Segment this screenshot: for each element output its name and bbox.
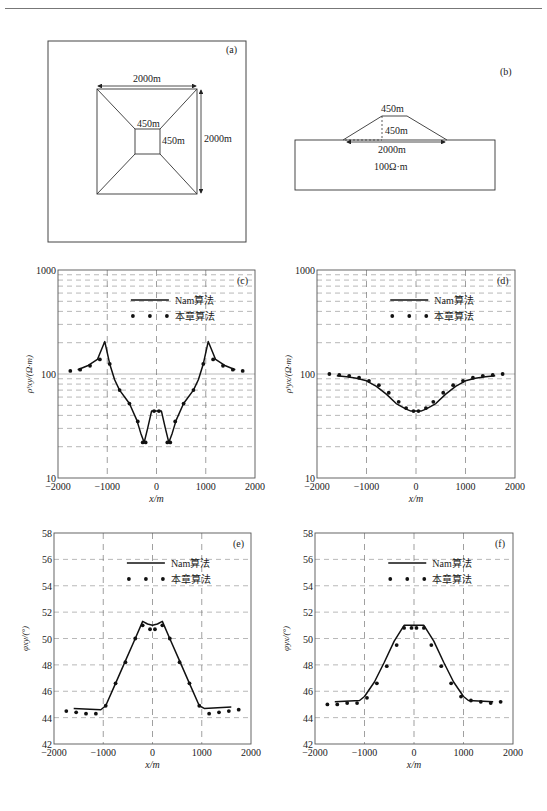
- x-tick-label: 2000: [505, 481, 525, 492]
- data-point-this-chapter: [459, 695, 463, 699]
- resistivity-label: 100Ω·m: [374, 161, 408, 172]
- base-width-label: 2000m: [378, 144, 406, 155]
- chart-d: −2000−1000010002000101001000x/mρˢyx/(Ω·m…: [273, 255, 547, 527]
- pyramid-edge: [97, 89, 135, 129]
- data-point-this-chapter: [387, 391, 391, 395]
- data-point-this-chapter: [335, 703, 339, 707]
- legend-dot-swatch: [131, 314, 135, 318]
- panel-label-b: (b): [500, 66, 512, 78]
- legend-label-nam: Nam算法: [434, 294, 473, 306]
- data-point-this-chapter: [412, 409, 416, 413]
- x-tick-label: 1000: [192, 747, 212, 758]
- data-point-this-chapter: [178, 660, 182, 664]
- data-point-this-chapter: [114, 681, 118, 685]
- panel-label: (c): [237, 275, 248, 287]
- x-axis-label: x/m: [148, 493, 163, 504]
- y-tick-label: 48: [42, 660, 52, 671]
- data-point-this-chapter: [345, 701, 349, 705]
- y-tick-label: 54: [42, 581, 52, 592]
- data-point-this-chapter: [481, 374, 485, 378]
- legend-label-nam: Nam算法: [432, 557, 471, 569]
- data-point-this-chapter: [439, 664, 443, 668]
- y-tick-label: 1000: [295, 265, 315, 276]
- x-axis-label: x/m: [144, 759, 159, 770]
- data-point-this-chapter: [469, 699, 473, 703]
- data-point-this-chapter: [241, 369, 245, 373]
- data-point-this-chapter: [133, 637, 137, 641]
- legend-dot-swatch: [407, 314, 411, 318]
- data-point-this-chapter: [417, 409, 421, 413]
- data-point-this-chapter: [325, 703, 329, 707]
- panel-label: (d): [497, 275, 509, 287]
- data-point-this-chapter: [422, 626, 426, 630]
- y-tick-label: 54: [303, 581, 313, 592]
- data-point-this-chapter: [221, 364, 225, 368]
- data-point-this-chapter: [64, 709, 68, 713]
- data-point-this-chapter: [84, 712, 88, 716]
- inner-width-label: 450m: [137, 118, 160, 129]
- x-tick-label: 0: [412, 747, 417, 758]
- x-tick-label: 0: [414, 481, 419, 492]
- data-point-this-chapter: [404, 406, 408, 410]
- data-point-this-chapter: [355, 701, 359, 705]
- x-tick-label: −1000: [354, 481, 380, 492]
- data-point-this-chapter: [197, 704, 201, 708]
- x-tick-label: 1000: [456, 481, 476, 492]
- legend-dot-swatch: [422, 577, 426, 581]
- y-tick-label: 48: [303, 660, 313, 671]
- data-point-this-chapter: [385, 664, 389, 668]
- y-tick-label: 44: [42, 713, 52, 724]
- data-point-this-chapter: [207, 712, 211, 716]
- y-tick-label: 56: [42, 554, 52, 565]
- data-point-this-chapter: [461, 379, 465, 383]
- data-point-this-chapter: [98, 358, 102, 362]
- diagram-b: (b) 450m 450m 2000m 100Ω·m: [295, 66, 512, 190]
- pyramid-edge: [160, 89, 197, 129]
- data-point-this-chapter: [489, 701, 493, 705]
- data-point-this-chapter: [397, 400, 401, 404]
- x-tick-label: 2000: [503, 747, 523, 758]
- data-point-this-chapter: [424, 406, 428, 410]
- y-tick-label: 42: [303, 739, 313, 750]
- data-point-this-chapter: [94, 712, 98, 716]
- data-point-this-chapter: [357, 376, 361, 380]
- legend-dot-swatch: [144, 577, 148, 581]
- data-point-this-chapter: [201, 362, 205, 366]
- x-axis-label: x/m: [406, 759, 421, 770]
- y-tick-label: 46: [42, 686, 52, 697]
- data-point-this-chapter: [74, 710, 78, 714]
- data-point-this-chapter: [78, 368, 82, 372]
- outer-width-label: 2000m: [133, 73, 161, 84]
- x-tick-label: 1000: [196, 481, 216, 492]
- y-tick-label: 10: [46, 473, 56, 484]
- y-tick-label: 10: [305, 473, 315, 484]
- data-point-this-chapter: [68, 369, 72, 373]
- y-axis-label: ρˢxy/(Ω·m): [24, 355, 34, 394]
- data-point-this-chapter: [375, 681, 379, 685]
- y-tick-label: 100: [300, 369, 315, 380]
- chart-e: −2000−1000010002000424446485052545658x/m…: [0, 525, 273, 811]
- data-point-this-chapter: [337, 373, 341, 377]
- data-point-this-chapter: [491, 373, 495, 377]
- data-point-this-chapter: [108, 362, 112, 366]
- panel-label-a: (a): [226, 44, 237, 56]
- data-point-this-chapter: [144, 440, 148, 444]
- y-axis-label: ρˢyx/(Ω·m): [283, 355, 293, 394]
- y-axis-label: φyx/(°): [281, 626, 291, 651]
- pyramid-edge: [97, 154, 135, 194]
- legend-label-this-chapter: 本章算法: [432, 573, 472, 585]
- panel-label: (e): [233, 538, 244, 550]
- data-point-this-chapter: [152, 409, 156, 413]
- data-point-this-chapter: [217, 710, 221, 714]
- y-axis-label: φxy/(°): [20, 626, 30, 651]
- chart-f: −2000−1000010002000424446485052545658x/m…: [273, 525, 547, 811]
- data-point-this-chapter: [211, 358, 215, 362]
- data-point-this-chapter: [231, 368, 235, 372]
- data-point-this-chapter: [471, 376, 475, 380]
- data-point-this-chapter: [499, 700, 503, 704]
- legend-label-this-chapter: 本章算法: [171, 573, 211, 585]
- y-tick-label: 52: [303, 607, 313, 618]
- legend-dot-swatch: [127, 577, 131, 581]
- legend-dot-swatch: [161, 577, 165, 581]
- data-point-this-chapter: [192, 388, 196, 392]
